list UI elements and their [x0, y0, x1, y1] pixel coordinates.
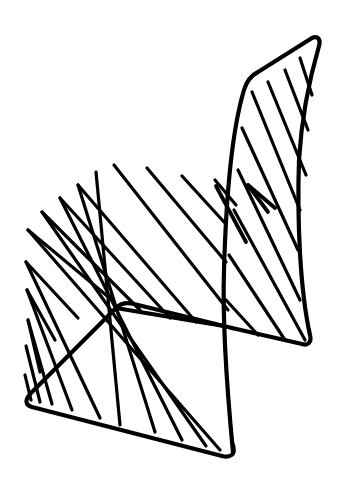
chair-illustration: [0, 0, 346, 489]
chair-drawing: [0, 0, 346, 489]
seat-rods: [25, 165, 236, 450]
backrest-frame: [224, 37, 320, 452]
wire-rod: [114, 165, 228, 310]
wire-rod: [216, 186, 246, 242]
